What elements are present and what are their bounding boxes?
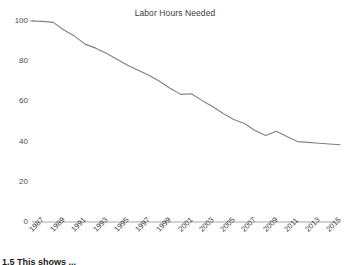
x-axis-tick-label: 1987 [28,216,46,234]
x-axis-tick-label: 2013 [304,216,322,234]
x-axis-tick-label: 1989 [49,216,67,234]
x-axis-tick-label: 2009 [262,216,280,234]
x-axis-tick-label: 2005 [219,216,237,234]
x-axis-tick-label: 2003 [198,216,216,234]
x-axis-tick-label: 2007 [240,216,258,234]
chart-container: Labor Hours Needed 100806040200 19871989… [0,0,344,265]
x-axis-tick-labels: 1987198919911993199519971999200120032005… [0,0,344,265]
x-axis-tick-label: 1997 [134,216,152,234]
x-axis-tick-label: 1995 [113,216,131,234]
x-axis-tick-label: 1991 [70,216,88,234]
figure-caption: 1.5 This shows ... [2,257,342,265]
x-axis-tick-label: 2015 [325,216,343,234]
x-axis-tick-label: 1999 [155,216,173,234]
x-axis-tick-label: 2001 [177,216,195,234]
x-axis-tick-label: 2011 [283,216,300,233]
x-axis-tick-label: 1993 [92,216,110,234]
